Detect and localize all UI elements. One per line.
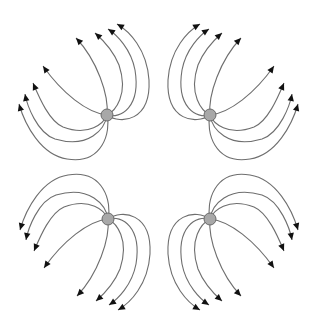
charge-node <box>102 213 114 225</box>
node-group-bottom-left <box>19 174 150 310</box>
field-line <box>77 219 108 296</box>
node-group-bottom-right <box>168 174 299 310</box>
arrowhead-icon <box>192 304 200 310</box>
field-line <box>25 94 107 142</box>
field-line <box>107 24 149 120</box>
field-line <box>210 66 274 115</box>
field-line <box>210 219 274 268</box>
node-group-top-left <box>18 24 149 160</box>
arrowhead-icon <box>267 66 274 74</box>
field-line <box>76 38 107 115</box>
arrowhead-icon <box>117 24 125 30</box>
field-line <box>210 192 292 240</box>
node-group-top-right <box>168 24 299 160</box>
field-line <box>34 204 108 251</box>
arrowhead-icon <box>267 260 274 268</box>
charge-node <box>101 109 113 121</box>
arrowhead-icon <box>44 260 51 268</box>
charge-node <box>204 109 216 121</box>
field-line <box>33 83 107 130</box>
field-line <box>210 219 241 296</box>
field-line <box>210 94 292 142</box>
arrowhead-icon <box>288 233 294 240</box>
arrowhead-icon <box>118 304 126 310</box>
arrowhead-icon <box>23 94 29 101</box>
field-line <box>210 83 284 130</box>
field-line <box>168 214 210 310</box>
arrowhead-icon <box>43 66 50 74</box>
arrowhead-icon <box>192 24 200 30</box>
field-line-diagram <box>0 0 315 326</box>
charge-node <box>204 213 216 225</box>
field-line <box>108 214 150 310</box>
field-line <box>26 192 108 240</box>
field-line <box>210 204 284 251</box>
field-line <box>44 219 108 268</box>
arrowhead-icon <box>288 94 294 101</box>
field-line <box>210 38 241 115</box>
field-line <box>168 24 210 120</box>
field-line <box>43 66 107 115</box>
arrowhead-icon <box>24 233 30 240</box>
